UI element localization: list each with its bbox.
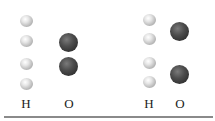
oxygen-label-left: O bbox=[62, 97, 76, 111]
hydrogen-label-right: H bbox=[142, 97, 156, 111]
hydrogen-atom bbox=[143, 57, 156, 69]
baseline-divider bbox=[4, 116, 213, 118]
oxygen-atom bbox=[59, 57, 78, 76]
molecule-diagram: H O H O bbox=[0, 0, 215, 121]
hydrogen-atom bbox=[20, 78, 33, 90]
oxygen-label-right: O bbox=[173, 97, 187, 111]
hydrogen-atom bbox=[20, 35, 33, 47]
oxygen-atom bbox=[59, 33, 78, 52]
hydrogen-atom bbox=[143, 33, 156, 45]
oxygen-atom bbox=[170, 22, 189, 41]
hydrogen-atom bbox=[20, 15, 33, 27]
hydrogen-atom bbox=[143, 76, 156, 88]
hydrogen-label-left: H bbox=[19, 97, 33, 111]
oxygen-atom bbox=[170, 65, 189, 84]
hydrogen-atom bbox=[20, 58, 33, 70]
hydrogen-atom bbox=[143, 14, 156, 26]
